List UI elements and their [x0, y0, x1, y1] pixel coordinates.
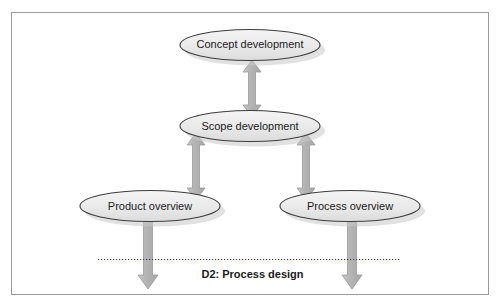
node-concept-development[interactable]	[180, 30, 325, 66]
node-shape	[80, 191, 220, 222]
connector-product-down	[138, 218, 158, 289]
connector-scope-process	[297, 133, 315, 200]
node-shape	[180, 30, 320, 61]
connector-concept-scope	[243, 60, 261, 117]
diagram-graphics	[0, 0, 501, 308]
diagram-canvas: Concept development Scope development Pr…	[0, 0, 501, 308]
node-process-overview[interactable]	[280, 191, 425, 227]
connector-scope-product	[187, 133, 205, 200]
connector-process-down	[342, 218, 362, 289]
phase-label: D2: Process design	[160, 268, 345, 280]
node-product-overview[interactable]	[80, 191, 225, 227]
node-shape	[280, 191, 420, 222]
node-shape	[180, 111, 320, 142]
